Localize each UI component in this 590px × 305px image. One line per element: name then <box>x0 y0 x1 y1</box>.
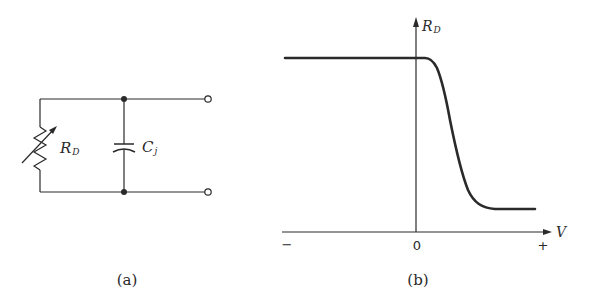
plot-b: V RD − 0 + (b) <box>282 17 568 289</box>
y-axis-arrow-icon <box>413 17 419 27</box>
x-axis-arrow-icon <box>543 229 552 235</box>
tick-plus: + <box>538 238 549 253</box>
resistor-label: RD <box>59 139 80 157</box>
terminal-top <box>205 96 211 102</box>
terminal-bottom <box>205 189 211 195</box>
variable-arrow-icon <box>22 126 57 163</box>
tick-zero: 0 <box>413 238 421 253</box>
x-axis-label: V <box>556 224 568 240</box>
diagram-canvas: RD Cj (a) V RD − 0 + (b) <box>0 0 590 305</box>
tick-minus: − <box>282 237 293 252</box>
y-axis-label: RD <box>421 18 441 35</box>
junction-dot-bottom <box>121 189 127 195</box>
rd-curve <box>285 58 535 209</box>
caption-b: (b) <box>407 271 428 289</box>
circuit-a: RD Cj (a) <box>22 96 211 289</box>
junction-dot-top <box>121 96 127 102</box>
caption-a: (a) <box>117 271 138 289</box>
capacitor-label: Cj <box>142 138 157 156</box>
